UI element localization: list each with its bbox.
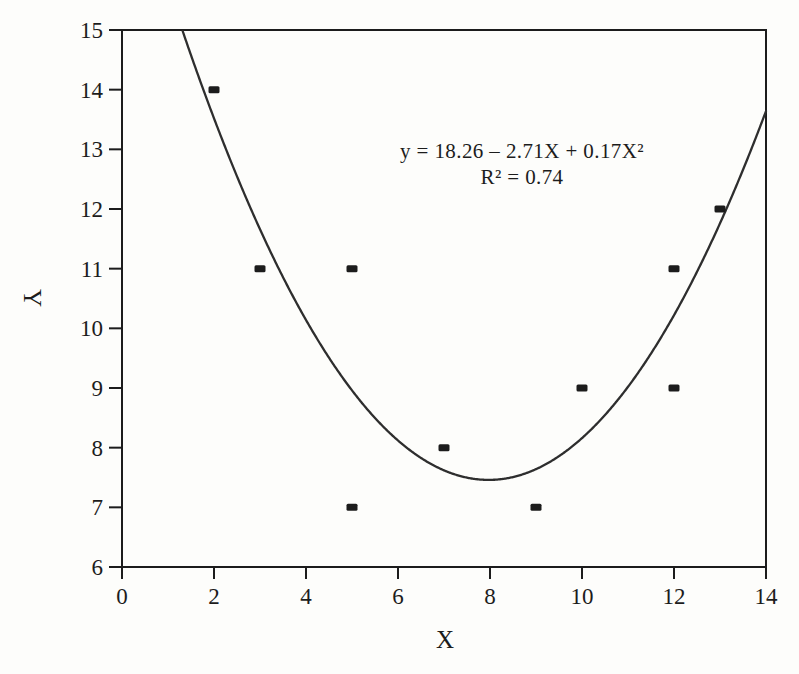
x-tick-label: 4 xyxy=(300,584,312,609)
axes-frame xyxy=(122,30,766,567)
x-tick-label: 10 xyxy=(571,584,594,609)
y-tick-label: 11 xyxy=(81,257,103,282)
data-point-marker xyxy=(209,86,220,93)
y-tick-label: 8 xyxy=(92,436,104,461)
x-tick-label: 2 xyxy=(208,584,220,609)
axis-ticks xyxy=(109,30,766,579)
equation-annotation: y = 18.26 – 2.71X + 0.17X² R² = 0.74 xyxy=(371,138,673,190)
x-tick-label: 6 xyxy=(392,584,404,609)
y-tick-label: 14 xyxy=(80,78,104,103)
data-point-marker xyxy=(255,265,266,272)
equation-text: y = 18.26 – 2.71X + 0.17X² xyxy=(371,138,673,164)
x-tick-label: 0 xyxy=(116,584,128,609)
y-tick-label: 6 xyxy=(92,555,104,580)
y-axis-label: Y xyxy=(16,279,46,317)
regression-curve xyxy=(183,31,766,480)
data-point-marker xyxy=(669,265,680,272)
y-tick-label: 13 xyxy=(80,137,103,162)
data-point-marker xyxy=(715,206,726,213)
data-point-marker xyxy=(347,265,358,272)
y-tick-label: 9 xyxy=(92,376,104,401)
data-point-marker xyxy=(669,385,680,392)
tick-labels: 024681012146789101112131415 xyxy=(80,18,778,609)
x-tick-label: 8 xyxy=(484,584,496,609)
x-tick-label: 14 xyxy=(755,584,779,609)
plot-canvas: 024681012146789101112131415 xyxy=(0,0,799,674)
data-point-marker xyxy=(439,444,450,451)
y-tick-label: 7 xyxy=(92,495,104,520)
y-tick-label: 15 xyxy=(80,18,103,43)
y-tick-label: 12 xyxy=(80,197,103,222)
y-tick-label: 10 xyxy=(80,316,103,341)
data-point-marker xyxy=(347,504,358,511)
scatter-plot-figure: 024681012146789101112131415 y = 18.26 – … xyxy=(0,0,799,674)
plot-frame xyxy=(122,30,766,567)
r-squared-text: R² = 0.74 xyxy=(371,164,673,190)
data-point-marker xyxy=(577,385,588,392)
x-axis-label: X xyxy=(405,626,485,654)
x-tick-label: 12 xyxy=(663,584,686,609)
data-point-marker xyxy=(531,504,542,511)
fit-curve xyxy=(183,31,766,480)
